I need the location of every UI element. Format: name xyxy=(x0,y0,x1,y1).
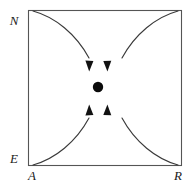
phase-portrait-figure: N E A R xyxy=(0,0,195,188)
phase-portrait-canvas: N E A R xyxy=(0,0,195,188)
label-vertical-top: N xyxy=(9,13,20,28)
label-horizontal-right: R xyxy=(173,168,182,183)
label-vertical-bottom: E xyxy=(9,151,18,166)
figure-background xyxy=(0,0,195,188)
equilibrium-point-dot xyxy=(93,82,103,92)
label-horizontal-left: A xyxy=(27,168,36,183)
